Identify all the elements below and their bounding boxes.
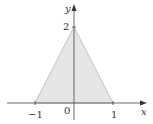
x-axis-label: x (141, 106, 147, 117)
y-tick-label-2: 2 (63, 21, 69, 32)
y-axis-label: y (64, 3, 71, 14)
y-axis-arrow-icon (72, 4, 77, 11)
x-tick-label-1: 1 (111, 109, 117, 120)
plot-canvas: −1 1 0 2 x y (0, 0, 153, 124)
origin-label: 0 (64, 105, 70, 116)
x-tick-label-minus-1: −1 (28, 109, 43, 120)
x-axis-arrow-icon (140, 101, 147, 106)
